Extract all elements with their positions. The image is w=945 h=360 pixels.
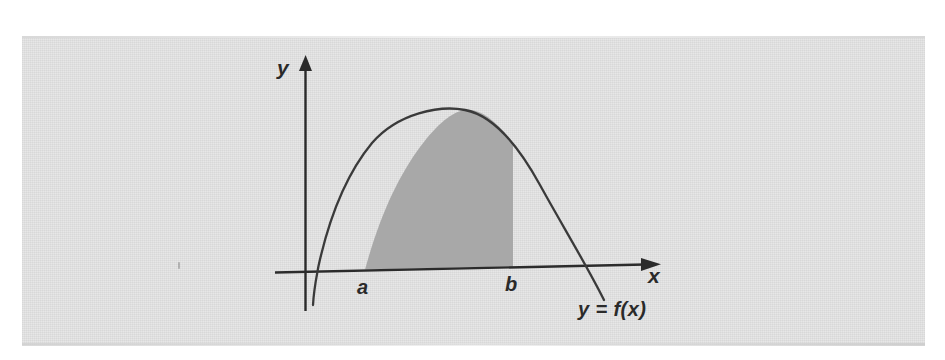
upper-limit-label-b: b [505,273,517,296]
integral-area-plot [0,0,945,360]
figure-page: y x a b y = f(x) [0,0,945,360]
y-axis-label: y [277,56,289,80]
shaded-area-under-curve [365,110,513,270]
x-axis-label: x [648,264,660,288]
y-axis-arrow-icon [299,55,312,71]
function-equation-label: y = f(x) [578,298,646,321]
lower-limit-label-a: a [357,276,368,299]
